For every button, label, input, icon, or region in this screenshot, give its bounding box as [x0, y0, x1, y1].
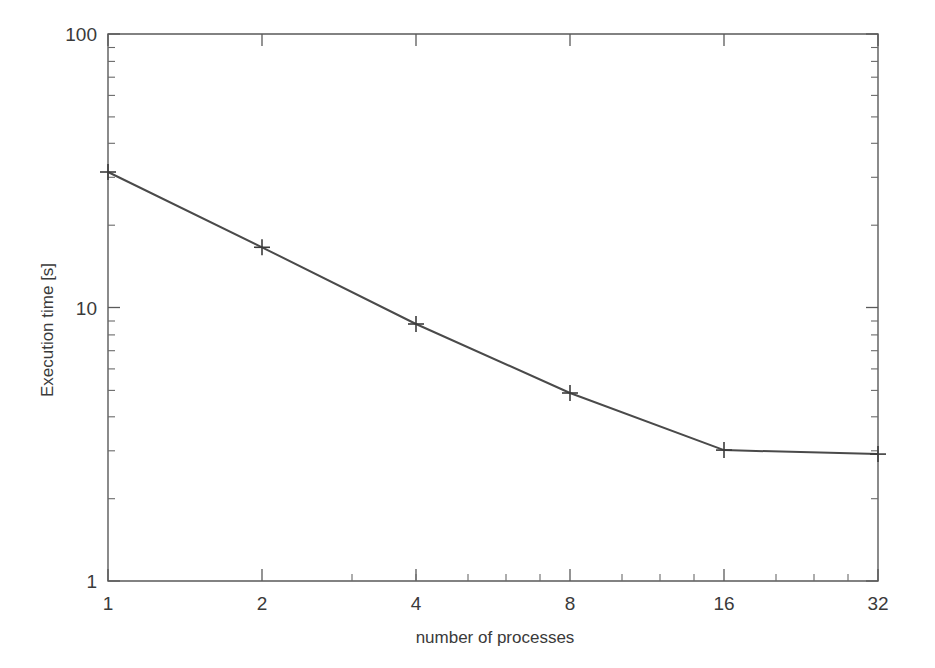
series-line — [108, 172, 878, 454]
chart-figure: 100 10 1 1 2 4 8 16 32 number of process… — [0, 0, 935, 668]
y-axis-minor-ticks — [108, 48, 878, 499]
x-tick-label-16: 16 — [713, 593, 734, 614]
x-axis-minor-ticks — [352, 574, 848, 581]
y-tick-label-10: 10 — [76, 298, 97, 319]
x-tick-label-4: 4 — [411, 593, 422, 614]
x-axis-title: number of processes — [416, 628, 575, 647]
plot-frame — [108, 34, 878, 581]
series-markers — [100, 164, 886, 462]
x-tick-label-32: 32 — [867, 593, 888, 614]
execution-time-line-chart: 100 10 1 1 2 4 8 16 32 number of process… — [0, 0, 935, 668]
x-tick-label-1: 1 — [103, 593, 114, 614]
y-tick-label-100: 100 — [65, 24, 97, 45]
data-series-execution-time — [100, 164, 886, 462]
x-tick-label-8: 8 — [565, 593, 576, 614]
y-tick-label-1: 1 — [86, 571, 97, 592]
y-axis-title: Execution time [s] — [38, 263, 57, 397]
x-axis-major-ticks — [108, 34, 878, 581]
y-axis-major-ticks — [108, 34, 878, 581]
x-tick-label-2: 2 — [257, 593, 268, 614]
